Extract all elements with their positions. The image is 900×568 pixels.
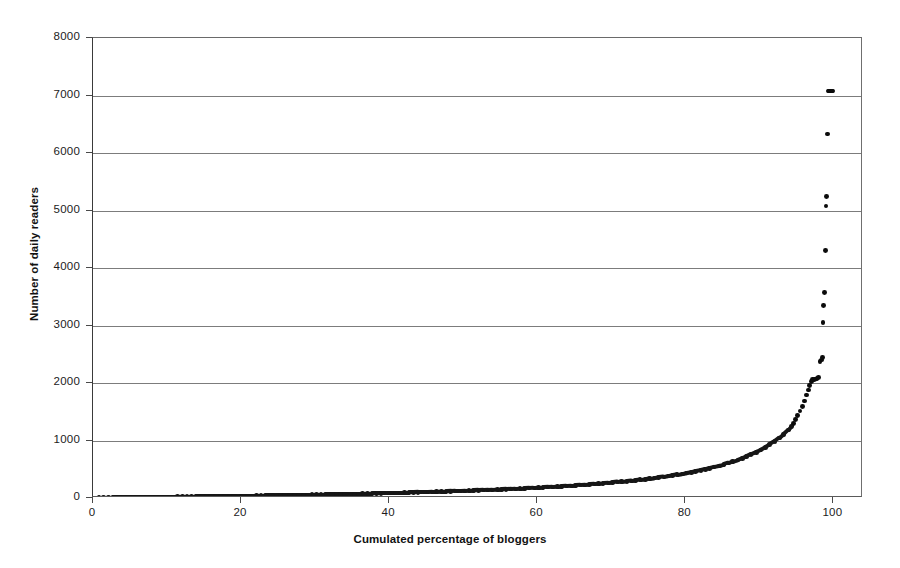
- data-trace-segment: [708, 465, 717, 471]
- data-trace-segment: [652, 475, 660, 480]
- data-trace-segment: [190, 494, 198, 496]
- chart-figure: 010002000300040005000600070008000 020406…: [0, 0, 900, 568]
- data-point: [689, 470, 694, 475]
- data-point: [749, 452, 754, 457]
- data-point: [555, 484, 560, 489]
- data-point: [125, 495, 130, 496]
- data-point: [532, 486, 537, 491]
- data-point: [819, 358, 824, 363]
- data-point: [684, 471, 689, 476]
- data-point: [508, 487, 513, 492]
- data-trace-segment: [227, 494, 235, 496]
- data-point: [175, 494, 180, 496]
- data-point: [97, 495, 102, 496]
- data-point: [825, 132, 830, 137]
- data-trace-segment: [268, 493, 276, 496]
- data-point: [226, 494, 231, 496]
- y-tick-mark: [86, 210, 92, 211]
- data-point: [162, 495, 167, 496]
- data-trace-segment: [657, 475, 666, 480]
- data-trace-segment: [403, 490, 411, 494]
- y-tick-mark: [86, 440, 92, 441]
- data-point: [444, 489, 449, 494]
- data-trace-segment: [648, 476, 656, 481]
- data-trace-segment: [463, 489, 471, 493]
- data-point: [282, 493, 287, 496]
- x-tick-mark: [832, 497, 833, 503]
- data-trace-segment: [398, 491, 406, 495]
- data-point: [536, 485, 541, 490]
- data-trace-segment: [514, 486, 522, 490]
- data-point: [806, 388, 811, 393]
- data-trace-segment: [440, 489, 448, 493]
- data-trace-segment: [666, 473, 674, 478]
- data-point: [296, 493, 301, 496]
- data-trace-segment: [348, 492, 356, 496]
- data-trace-segment: [634, 477, 642, 482]
- data-point: [807, 383, 812, 388]
- data-point: [421, 490, 426, 495]
- data-point: [416, 490, 421, 495]
- data-point: [573, 483, 578, 488]
- data-point: [402, 490, 407, 495]
- data-trace-segment: [310, 493, 318, 496]
- data-point: [240, 494, 245, 496]
- data-trace-segment: [541, 485, 549, 490]
- data-point: [148, 495, 153, 496]
- data-trace-segment: [731, 458, 740, 465]
- data-trace-segment: [366, 491, 374, 495]
- data-point: [789, 424, 794, 429]
- data-point: [393, 491, 398, 496]
- data-point: [129, 495, 134, 496]
- data-point: [662, 475, 667, 480]
- data-trace-segment: [125, 495, 133, 496]
- data-trace-segment: [389, 491, 397, 495]
- data-trace-segment: [333, 492, 341, 496]
- data-trace-segment: [662, 474, 670, 479]
- data-trace-segment: [754, 447, 763, 455]
- data-trace-segment: [139, 495, 147, 496]
- data-point: [476, 488, 481, 493]
- data-point: [798, 409, 803, 414]
- data-trace-segment: [282, 493, 290, 496]
- data-trace-segment: [107, 495, 115, 496]
- data-trace-segment: [467, 488, 475, 492]
- data-point: [827, 89, 832, 94]
- data-trace-segment: [459, 489, 467, 493]
- data-trace-segment: [551, 484, 559, 489]
- data-trace-segment: [274, 493, 282, 496]
- data-trace-segment: [301, 493, 309, 496]
- data-point: [231, 494, 236, 496]
- data-point: [300, 493, 305, 496]
- data-point: [365, 491, 370, 496]
- data-point: [351, 492, 356, 496]
- data-point: [374, 491, 379, 496]
- x-tick-mark: [684, 497, 685, 503]
- data-trace-segment: [777, 432, 787, 441]
- data-point: [821, 303, 826, 308]
- data-point: [194, 494, 199, 496]
- data-trace-segment: [319, 492, 327, 496]
- data-trace-segment: [717, 462, 726, 468]
- data-point: [157, 495, 162, 496]
- data-point: [490, 488, 495, 493]
- data-trace-segment: [496, 487, 504, 491]
- data-point: [830, 89, 835, 94]
- x-tick-mark: [240, 497, 241, 503]
- y-tick-mark: [86, 325, 92, 326]
- data-trace-segment: [329, 492, 337, 496]
- data-point: [822, 290, 827, 295]
- data-point: [407, 490, 412, 495]
- data-point: [138, 495, 143, 496]
- data-point: [793, 417, 798, 422]
- data-trace-segment: [449, 489, 457, 493]
- data-point: [722, 462, 727, 467]
- data-point: [767, 442, 772, 447]
- x-tick-label: 60: [506, 506, 566, 518]
- data-trace-segment: [472, 488, 481, 492]
- data-point: [703, 467, 708, 472]
- data-point: [273, 493, 278, 496]
- x-tick-label: 80: [654, 506, 714, 518]
- data-trace-segment: [597, 481, 605, 486]
- data-point: [813, 377, 818, 382]
